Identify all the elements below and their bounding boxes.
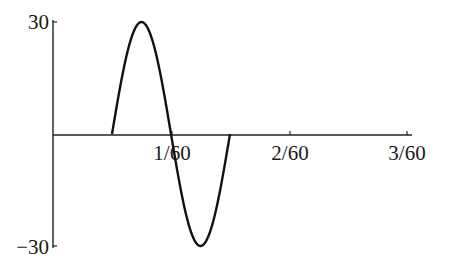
signal-curve [112,22,230,246]
y-tick-label-30: 30 [28,10,49,34]
x-tick-label-2: 2/60 [271,141,308,165]
x-tick-label-3: 3/60 [388,141,425,165]
chart: 30 −30 1/60 2/60 3/60 [0,0,454,270]
y-tick-label-neg30: −30 [16,235,49,259]
